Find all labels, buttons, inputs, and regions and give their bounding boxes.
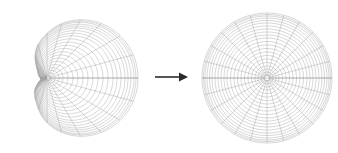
conformal-map-figure	[0, 0, 338, 153]
regular-polar-grid-panel	[202, 13, 332, 143]
